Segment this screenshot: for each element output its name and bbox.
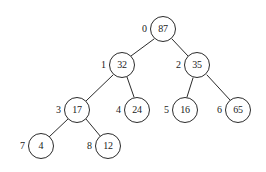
tree-node-index-label-6: 6 <box>217 105 222 115</box>
tree-node-5: 16 <box>172 97 198 123</box>
tree-edge <box>207 75 230 100</box>
tree-node-7: 4 <box>28 133 54 159</box>
tree-node-index-label-3: 3 <box>56 105 61 115</box>
tree-edge <box>131 39 154 56</box>
binary-tree-diagram: 87323517241665412 012345678 <box>0 0 266 172</box>
tree-node-6: 65 <box>225 97 251 123</box>
tree-node-index-label-7: 7 <box>20 141 25 151</box>
tree-edge <box>86 119 101 137</box>
tree-edge <box>49 119 68 137</box>
tree-node-value: 32 <box>117 60 127 70</box>
tree-edge <box>187 78 193 97</box>
tree-node-index-label-0: 0 <box>142 24 147 34</box>
tree-node-index-label-1: 1 <box>101 60 106 70</box>
tree-node-value: 17 <box>72 105 82 115</box>
tree-edge <box>86 75 113 101</box>
tree-node-3: 17 <box>64 97 90 123</box>
tree-node-2: 35 <box>184 52 210 78</box>
tree-edge <box>172 39 188 56</box>
tree-node-value: 24 <box>132 105 142 115</box>
tree-node-value: 87 <box>158 24 168 34</box>
tree-node-4: 24 <box>124 97 150 123</box>
tree-node-8: 12 <box>95 133 121 159</box>
tree-node-0: 87 <box>150 16 176 42</box>
tree-node-index-label-2: 2 <box>176 60 181 70</box>
tree-node-index-label-8: 8 <box>87 141 92 151</box>
tree-node-value: 4 <box>39 141 44 151</box>
tree-node-value: 12 <box>103 141 113 151</box>
tree-node-1: 32 <box>109 52 135 78</box>
tree-node-value: 16 <box>180 105 190 115</box>
tree-node-index-label-4: 4 <box>116 105 121 115</box>
tree-node-value: 35 <box>192 60 202 70</box>
tree-node-value: 65 <box>233 105 243 115</box>
tree-node-index-label-5: 5 <box>164 105 169 115</box>
tree-edge <box>127 77 134 97</box>
